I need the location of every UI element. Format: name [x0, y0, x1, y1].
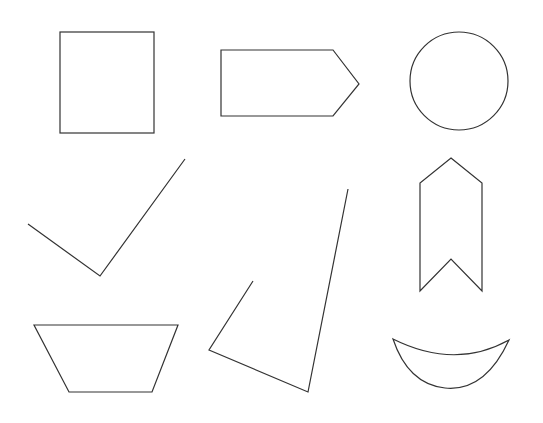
shapes-canvas: [0, 0, 543, 423]
pentagon-arrow-shape: [221, 50, 359, 116]
ribbon-banner-shape: [420, 158, 482, 291]
checkmark-shape: [28, 159, 185, 276]
crescent-shape: [393, 339, 509, 388]
circle-shape: [410, 32, 508, 130]
open-quadrilateral-shape: [209, 189, 348, 392]
rectangle-shape: [60, 32, 154, 133]
trapezoid-shape: [34, 325, 178, 392]
